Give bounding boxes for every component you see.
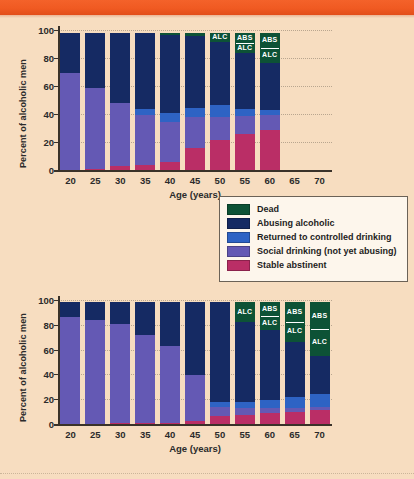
annotation-divider (236, 43, 254, 44)
y-axis-tick-label: 40 (30, 370, 54, 380)
stacked-bar (135, 300, 155, 424)
x-axis-tick-label: 65 (281, 430, 309, 440)
legend-item-label: Dead (257, 205, 279, 214)
legend-item-label: Stable abstinent (257, 261, 327, 270)
top-chart-panel: Percent of alcoholic men0204060801002025… (0, 22, 414, 192)
stacked-bar (60, 300, 80, 424)
bar-segment (110, 302, 130, 324)
x-axis-tick-label: 55 (231, 430, 259, 440)
bar-segment (235, 414, 255, 424)
bar-segment (260, 413, 280, 424)
legend-swatch-icon (227, 232, 250, 243)
bar-segment (260, 110, 280, 115)
bar-segment (110, 33, 130, 104)
legend-swatch-icon (227, 246, 250, 257)
bar-segment (310, 393, 330, 407)
legend-item: Returned to controlled drinking (227, 230, 400, 244)
bar-segment (185, 374, 205, 420)
x-axis-tick-label: 60 (256, 430, 284, 440)
bar-segment (260, 330, 280, 400)
bar-segment (235, 108, 255, 116)
bar-segment (135, 164, 155, 170)
bar-segment (235, 408, 255, 415)
bar-segment (210, 117, 230, 140)
y-axis-label: Percent of alcoholic men (18, 313, 28, 422)
bar-segment (235, 115, 255, 134)
bar-segment-annotation: ABS (260, 305, 280, 312)
stacked-bar: ABSALC (285, 300, 305, 424)
bar-segment (110, 324, 130, 424)
bar-segment (85, 87, 105, 169)
header-accent-shadow (0, 15, 414, 18)
stacked-bar (185, 300, 205, 424)
bar-segment (285, 412, 305, 424)
x-axis-tick-label: 35 (131, 176, 159, 186)
bar-segment (160, 346, 180, 423)
x-axis-tick-label: 45 (181, 430, 209, 440)
bar-segment (85, 33, 105, 88)
bar-segment (210, 41, 230, 105)
stacked-bar (110, 300, 130, 424)
bar-segment (210, 302, 230, 402)
x-axis-line (54, 170, 332, 172)
x-axis-tick-label: 70 (306, 176, 334, 186)
bar-segment (160, 302, 180, 346)
x-axis-tick-label: 25 (81, 176, 109, 186)
legend-item: Social drinking (not yet abusing) (227, 244, 400, 258)
bar-segment (260, 399, 280, 408)
legend-item: Stable abstinent (227, 258, 400, 272)
bar-segment-annotation: ALC (260, 51, 280, 58)
bar-segment (135, 302, 155, 335)
bar-segment (160, 33, 180, 35)
bar-segment (160, 34, 180, 113)
stacked-bar (60, 30, 80, 170)
y-axis-label: Percent of alcoholic men (18, 59, 28, 168)
bar-segment (160, 113, 180, 122)
stacked-bar (160, 30, 180, 170)
x-axis-tick-label: 30 (106, 176, 134, 186)
bar-segment-annotation: ABS (235, 34, 255, 41)
bar-segment (285, 341, 305, 397)
x-axis-tick-label: 55 (231, 176, 259, 186)
legend-swatch-icon (227, 204, 250, 215)
x-axis-line (54, 424, 332, 426)
bar-segment (110, 103, 130, 167)
bar-segment-annotation: ALC (210, 33, 230, 40)
bar-segment (235, 321, 255, 402)
bottom-chart-panel: Percent of alcoholic men0204060801002025… (0, 292, 414, 467)
annotation-divider (286, 322, 304, 323)
bar-segment-annotation: ALC (260, 319, 280, 326)
stacked-bar: ABSALC (235, 30, 255, 170)
y-axis-tick-label: 20 (30, 395, 54, 405)
x-axis-tick-label: 70 (306, 430, 334, 440)
bar-segment (85, 320, 105, 424)
annotation-divider (311, 329, 329, 330)
y-axis-tick-label: 100 (30, 26, 54, 36)
bar-segment (210, 415, 230, 424)
y-axis-line (58, 296, 60, 424)
bar-segment (260, 62, 280, 110)
bar-segment (185, 302, 205, 375)
stacked-bar: ABSALC (260, 300, 280, 424)
bar-segment (310, 409, 330, 424)
bar-segment (185, 33, 205, 36)
x-axis-tick-label: 40 (156, 430, 184, 440)
legend-item-label: Returned to controlled drinking (257, 233, 392, 242)
y-axis-tick-label: 20 (30, 138, 54, 148)
bar-segment (160, 121, 180, 162)
bar-segment (210, 407, 230, 416)
x-axis-tick-label: 65 (281, 176, 309, 186)
x-axis-tick-label: 20 (56, 176, 84, 186)
legend-item: Abusing alcoholic (227, 216, 400, 230)
y-axis-line (58, 26, 60, 170)
y-axis-tick-label: 60 (30, 82, 54, 92)
bar-segment (210, 402, 230, 408)
legend-item-label: Abusing alcoholic (257, 219, 335, 228)
stacked-bar: ABSALC (310, 300, 330, 424)
bar-segment-annotation: ALC (235, 44, 255, 51)
bar-segment (60, 72, 80, 170)
stacked-bar (110, 30, 130, 170)
x-axis-label: Age (years) (58, 444, 332, 454)
x-axis-tick-label: 60 (256, 176, 284, 186)
stacked-bar (160, 300, 180, 424)
